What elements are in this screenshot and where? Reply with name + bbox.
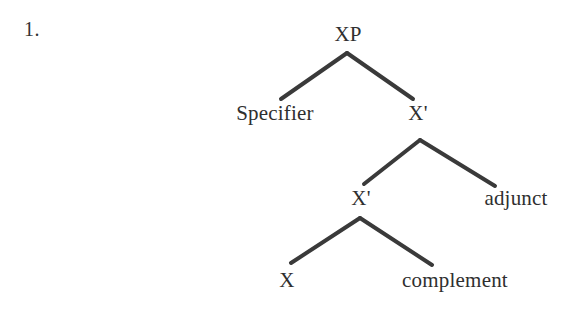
tree-edge-xbar_low-to-complement — [360, 218, 432, 265]
tree-edge-xp-to-spec — [281, 53, 347, 99]
tree-node-xp: XP — [334, 22, 361, 47]
tree-node-specifier: Specifier — [236, 101, 314, 126]
tree-node-x-head: X — [279, 268, 294, 293]
tree-edge-xbar_up-to-xbar_low — [364, 140, 420, 184]
tree-node-xbar-lower: X' — [351, 186, 370, 211]
tree-branches-svg — [0, 0, 583, 311]
tree-edge-xp-to-xbar_up — [347, 53, 413, 99]
tree-node-complement: complement — [402, 268, 508, 293]
tree-node-adjunct: adjunct — [484, 186, 547, 211]
tree-edge-xbar_up-to-adjunct — [420, 140, 495, 186]
diagram-page: 1. XP Specifier X' X' adjunct X compleme… — [0, 0, 583, 311]
tree-edge-xbar_low-to-x_head — [291, 218, 360, 263]
tree-node-xbar-upper: X' — [408, 101, 427, 126]
